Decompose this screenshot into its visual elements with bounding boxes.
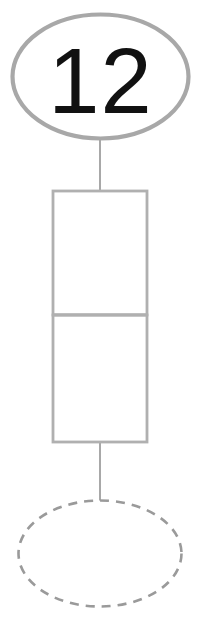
node-rectangle-lower-cell[interactable]	[53, 315, 147, 442]
node-top-ellipse-label: 12	[48, 30, 152, 132]
diagram-svg: 12	[0, 0, 201, 623]
node-bottom-dashed-ellipse[interactable]	[19, 501, 182, 607]
node-rectangle-upper-cell[interactable]	[53, 191, 147, 315]
diagram-canvas: 12	[0, 0, 201, 623]
